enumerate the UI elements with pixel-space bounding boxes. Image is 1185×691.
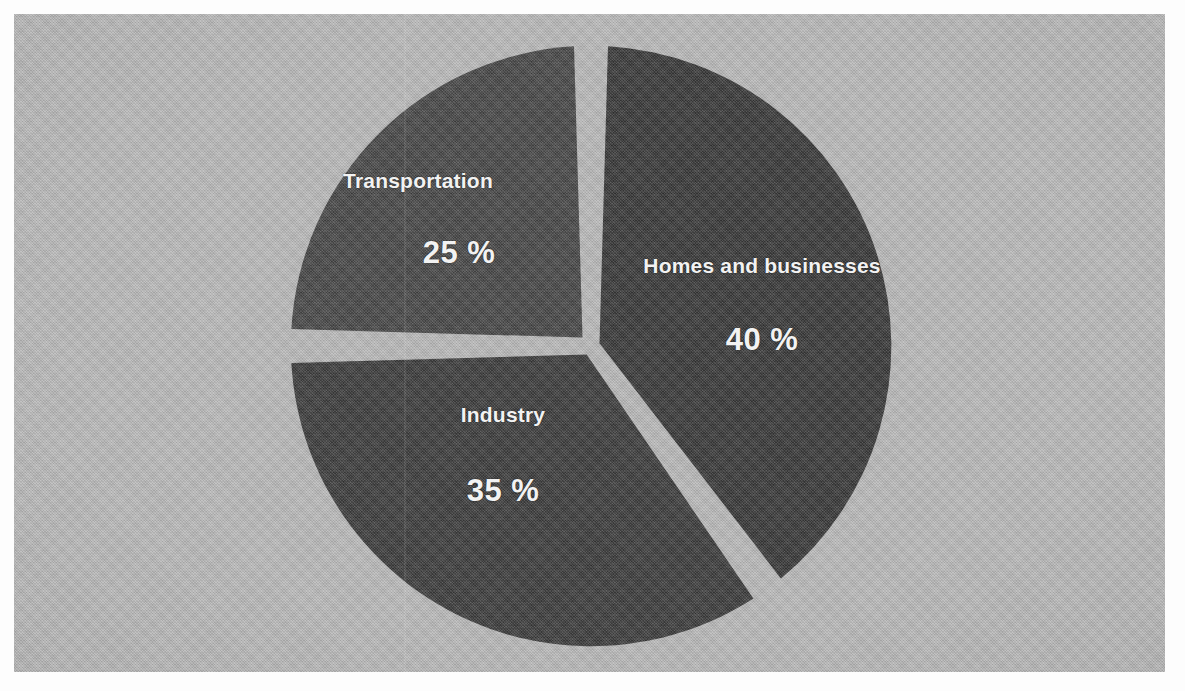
pie-slices-grain	[291, 46, 891, 646]
pie-chart	[14, 14, 1165, 672]
page-root: Homes and businesses 40 % Transportation…	[0, 0, 1185, 691]
pie-slice-grain	[291, 46, 582, 337]
chart-panel: Homes and businesses 40 % Transportation…	[14, 14, 1165, 672]
